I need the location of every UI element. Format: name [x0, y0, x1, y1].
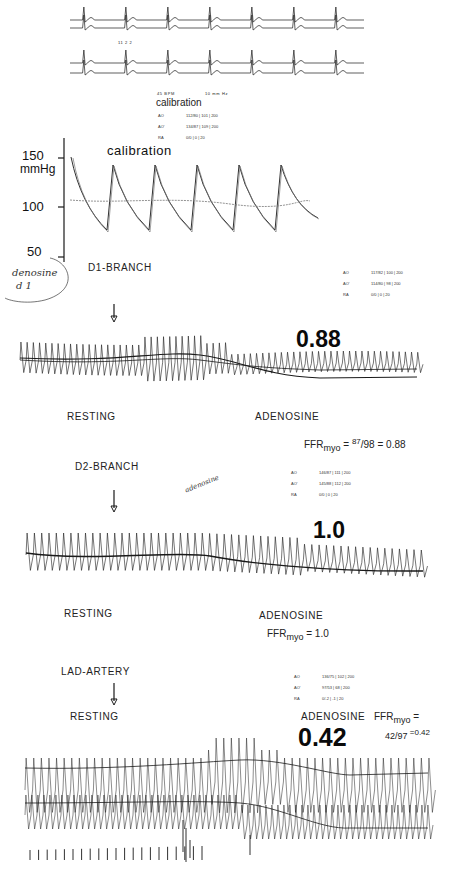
table-value: 145/88 | 112 | 200	[319, 478, 351, 489]
ecg-small-label: 11 2 2	[118, 40, 132, 45]
ffr-den: /98	[361, 439, 375, 450]
table-value: 0/0 | 0 | 20	[186, 132, 205, 143]
d2-ffr-formula: FFRmyo = 1.0	[267, 628, 329, 642]
table-value: 0/-2 | -1 | 20	[322, 693, 343, 704]
lad-ffr-formula: FFRmyo =	[374, 711, 419, 725]
d2-mean-trace	[26, 553, 423, 571]
table-key: AO'	[294, 682, 304, 693]
d1-pressure-table: AO117/82 | 100 | 200 AO'114/80 | 98 | 20…	[343, 267, 403, 300]
table-key: RA	[291, 489, 301, 500]
y-tick-150: 150	[22, 148, 44, 163]
handwritten-note-line2: d 1	[16, 280, 32, 291]
table-value: 117/82 | 100 | 200	[371, 267, 403, 278]
d1-resting-label: RESTING	[67, 411, 116, 422]
handwritten-circle	[5, 258, 68, 302]
table-value: 97/53 | 68 | 200	[322, 682, 350, 693]
ffr-eq: =	[410, 711, 419, 722]
table-value: 0/0 | 0 | 20	[371, 289, 390, 300]
d1-ffr-value: 0.88	[296, 326, 341, 353]
table-key: RA	[158, 132, 168, 143]
table-key: AO'	[158, 121, 168, 132]
ffr-result: =0.42	[408, 728, 430, 737]
lad-ffr-value: 0.42	[298, 723, 347, 752]
table-key: RA	[343, 289, 353, 300]
table-key: AO	[158, 110, 168, 121]
table-key: RA	[294, 693, 304, 704]
ffr-result: = 1.0	[303, 628, 328, 639]
ffr-fraction: 42/97	[385, 731, 408, 741]
calibration-table-title: calibration	[156, 97, 202, 108]
calibration-mean-trace	[70, 200, 310, 207]
table-value: 112/80 | 101 | 200	[186, 110, 218, 121]
table-key: AO	[343, 267, 353, 278]
d1-pressure-trace	[20, 336, 423, 382]
ffr-prefix: FFR	[374, 711, 393, 722]
calibration-panel-title: calibration	[107, 143, 172, 158]
ffr-eq: =	[340, 439, 351, 450]
ffr-num: 87	[352, 437, 361, 446]
ffr-sub: myo	[323, 443, 340, 453]
lad-ffr-fraction: 42/97 =0.42	[385, 728, 430, 741]
d2-pressure-table: AO146/87 | 111 | 200 AO'145/88 | 112 | 2…	[291, 467, 351, 500]
table-value: 136/75 | 102 | 200	[322, 671, 354, 682]
table-key: AO	[291, 467, 301, 478]
handwritten-note-line1: denosine	[12, 267, 57, 278]
d2-site-label: D2-BRANCH	[75, 461, 139, 472]
table-value: 114/80 | 98 | 200	[371, 278, 401, 289]
ecg-trace-4	[70, 60, 364, 75]
d1-ffr-formula: FFRmyo = 87/98 = 0.88	[304, 437, 406, 453]
ecg-trace-1	[70, 7, 364, 22]
lad-resting-label: RESTING	[70, 711, 119, 722]
ffr-prefix: FFR	[304, 439, 323, 450]
ecg-header-right: 10 mm Hz	[205, 91, 228, 96]
table-value: 0/0 | 0 | 20	[319, 489, 338, 500]
ffr-prefix: FFR	[267, 628, 286, 639]
y-axis-unit: mmHg	[20, 162, 55, 176]
lad-pressure-table: AO136/75 | 102 | 200 AO'97/53 | 68 | 200…	[294, 671, 354, 704]
ffr-sub: myo	[393, 715, 410, 725]
calibration-trace-ao	[71, 157, 318, 230]
d1-adenosine-label: ADENOSINE	[255, 411, 319, 422]
table-key: AO	[294, 671, 304, 682]
lad-site-label: LAD-ARTERY	[61, 666, 130, 677]
y-tick-50: 50	[27, 244, 41, 259]
d2-ffr-value: 1.0	[313, 517, 345, 544]
ffr-result: = 0.88	[375, 439, 406, 450]
lad-distal-trace	[25, 795, 433, 839]
ecg-trace-3	[70, 50, 364, 65]
table-value: 146/87 | 111 | 200	[319, 467, 351, 478]
d2-resting-label: RESTING	[64, 608, 113, 619]
ecg-header-left: 45 BPM	[157, 91, 175, 96]
calibration-table: AO112/80 | 101 | 200 AO'134/87 | 109 | 2…	[158, 110, 218, 143]
y-tick-100: 100	[22, 199, 44, 214]
d1-site-label: D1-BRANCH	[88, 262, 152, 273]
table-value: 134/87 | 109 | 200	[186, 121, 218, 132]
d2-adenosine-label: ADENOSINE	[259, 610, 323, 621]
table-key: AO'	[291, 478, 301, 489]
lad-adenosine-label: ADENOSINE	[301, 711, 365, 722]
lad-ecg-spikes	[30, 846, 202, 860]
table-key: AO'	[343, 278, 353, 289]
ffr-sub: myo	[286, 632, 303, 642]
